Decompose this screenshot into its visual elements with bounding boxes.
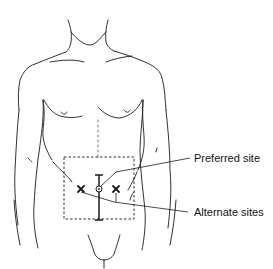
alternate-leader-line	[81, 192, 188, 212]
arm-left-outer	[15, 110, 19, 225]
flank-right	[128, 172, 137, 190]
arm-right-outer	[166, 110, 171, 228]
torso-left	[43, 100, 52, 160]
nipple-right	[124, 110, 130, 112]
arm-right-back	[170, 200, 176, 245]
neck-notch	[71, 32, 106, 45]
nipple-left	[61, 112, 67, 114]
preferred-leader-line	[101, 158, 190, 186]
flank-mark	[130, 192, 134, 200]
arm-left-inner	[34, 100, 44, 248]
pec-right	[98, 100, 142, 118]
alternate-site-marker-right	[113, 186, 119, 192]
arm-mark-right	[156, 148, 157, 152]
torso-diagram: Preferred site Alternate sites	[0, 0, 273, 269]
pec-left	[44, 100, 82, 118]
clavicle-right	[106, 56, 132, 62]
alternate-site-marker-left	[78, 186, 84, 192]
label-preferred-site: Preferred site	[194, 152, 260, 164]
arm-left-back	[14, 200, 20, 245]
flank-left	[53, 162, 72, 182]
clavicle-left	[50, 60, 84, 62]
arm-mark-left	[28, 158, 32, 162]
neck-right	[106, 20, 114, 51]
neck-left	[66, 20, 71, 52]
groin-left	[88, 235, 104, 260]
label-alternate-sites: Alternate sites	[194, 206, 264, 218]
groin-right	[104, 235, 120, 260]
shoulder-right	[114, 51, 166, 110]
